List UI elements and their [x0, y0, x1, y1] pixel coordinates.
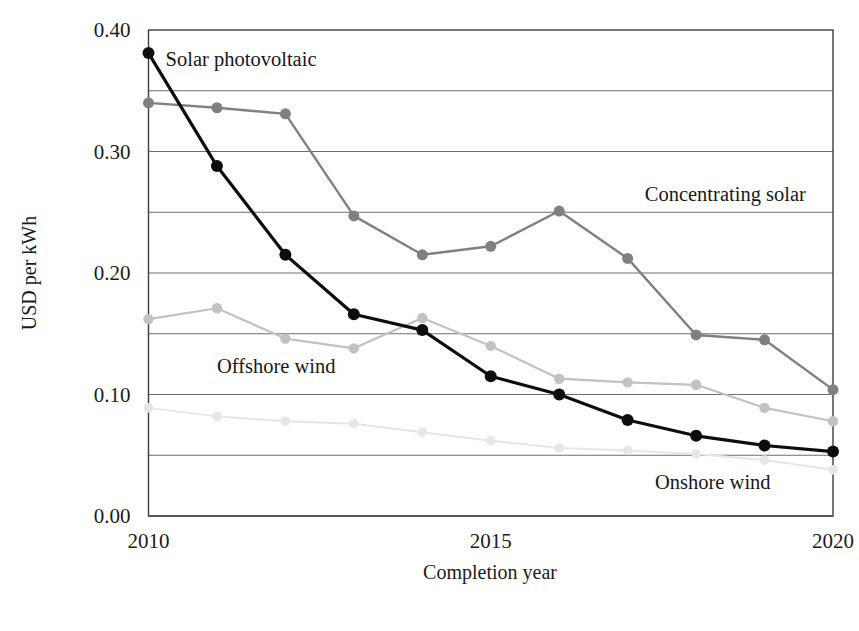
data-point	[827, 446, 839, 458]
series-label-solar-photovoltaic: Solar photovoltaic	[166, 48, 317, 71]
data-point	[485, 370, 497, 382]
data-point	[691, 449, 701, 459]
data-point	[416, 324, 428, 336]
data-point	[622, 253, 633, 264]
data-point	[349, 343, 359, 353]
data-point	[623, 446, 633, 456]
data-point	[279, 249, 291, 261]
data-point	[828, 465, 838, 475]
data-point	[418, 427, 428, 437]
series-label-offshore-wind: Offshore wind	[217, 355, 336, 377]
data-point	[211, 102, 222, 113]
data-point	[554, 443, 564, 453]
data-point	[143, 47, 155, 59]
y-tick-label: 0.40	[94, 18, 131, 42]
data-point	[486, 436, 496, 446]
data-point	[828, 384, 839, 395]
x-tick-label: 2015	[470, 529, 512, 553]
data-point	[828, 416, 838, 426]
data-point	[281, 416, 291, 426]
data-point	[348, 210, 359, 221]
data-point	[349, 419, 359, 429]
y-tick-label: 0.20	[94, 261, 131, 285]
data-point	[622, 414, 634, 426]
data-point	[759, 334, 770, 345]
data-point	[144, 403, 154, 413]
chart-figure: 0.000.100.200.300.40 201020152020 Solar …	[0, 0, 859, 631]
data-point	[691, 329, 702, 340]
data-point	[417, 313, 427, 323]
data-point	[280, 108, 291, 119]
series-label-onshore-wind: Onshore wind	[655, 471, 771, 493]
data-point	[212, 303, 222, 313]
data-point	[554, 206, 565, 217]
data-point	[553, 389, 565, 401]
data-point	[280, 333, 290, 343]
data-point	[760, 455, 770, 465]
x-tick-label: 2010	[128, 529, 170, 553]
data-point	[759, 440, 771, 452]
data-point	[690, 430, 702, 442]
data-point	[211, 160, 223, 172]
y-tick-label: 0.30	[94, 140, 131, 164]
y-tick-label: 0.00	[94, 504, 131, 528]
x-axis-title: Completion year	[423, 561, 557, 584]
y-axis-title: USD per kWh	[18, 216, 41, 330]
data-point	[143, 314, 153, 324]
data-point	[417, 249, 428, 260]
data-point	[212, 412, 222, 422]
line-chart-canvas: 0.000.100.200.300.40 201020152020 Solar …	[0, 0, 859, 631]
data-point	[691, 380, 701, 390]
data-point	[622, 377, 632, 387]
y-tick-label: 0.10	[94, 383, 131, 407]
data-point	[143, 97, 154, 108]
data-point	[554, 374, 564, 384]
data-point	[486, 341, 496, 351]
data-point	[759, 403, 769, 413]
data-point	[485, 241, 496, 252]
x-tick-label: 2020	[812, 529, 854, 553]
data-point	[348, 308, 360, 320]
series-label-concentrating-solar: Concentrating solar	[645, 183, 806, 206]
